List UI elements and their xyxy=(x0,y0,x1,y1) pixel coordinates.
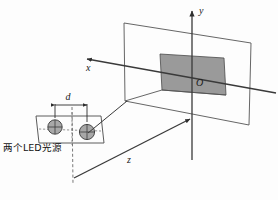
y-axis-label: y xyxy=(198,5,204,16)
led-drop-dashed-line xyxy=(72,107,73,184)
z-axis-label: z xyxy=(126,154,131,165)
led-source-left xyxy=(48,120,62,134)
x-axis-label: x xyxy=(85,62,91,73)
dimension-d: d xyxy=(55,91,87,105)
base-line-left xyxy=(125,90,162,101)
origin-label: O xyxy=(196,77,203,88)
dimension-d-label: d xyxy=(66,91,72,102)
led-source-right xyxy=(79,124,95,140)
diagram-canvas: y x O z xyxy=(0,0,278,200)
led-to-plane-ray xyxy=(88,101,127,133)
led-source-annotation: 两个LED光源 xyxy=(3,142,62,153)
physics-diagram-figure: y x O z xyxy=(0,0,278,200)
